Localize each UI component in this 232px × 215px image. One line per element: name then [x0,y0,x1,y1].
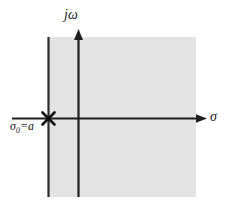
imaginary-axis-arrowhead [74,29,83,40]
scan-texture-overlay [48,37,196,197]
figure-canvas: jω σ σ0=a [0,0,232,215]
roc-boundary-label: σ0=a [10,120,34,135]
real-axis-label: σ [210,110,217,124]
real-axis-arrowhead [196,114,207,123]
roc-boundary-label-value: a [28,119,34,133]
splane-diagram-svg [0,0,232,215]
imaginary-axis-label: jω [64,8,78,22]
roc-boundary-label-equals: = [20,119,28,133]
